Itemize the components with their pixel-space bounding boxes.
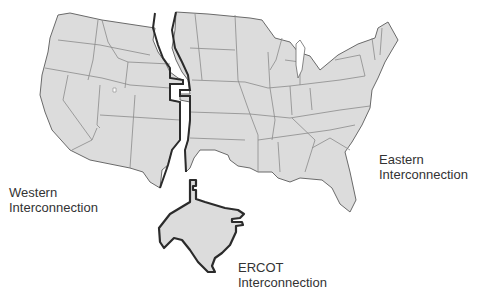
western-label-line2: Interconnection — [9, 200, 98, 215]
eastern-label-line2: Interconnection — [379, 167, 468, 182]
eastern-region — [172, 12, 398, 212]
eastern-label-line1: Eastern — [379, 152, 468, 167]
western-label-line1: Western — [9, 185, 98, 200]
ercot-label-line1: ERCOT — [238, 260, 327, 275]
ercot-label-line2: Interconnection — [238, 275, 327, 290]
ercot-region — [159, 180, 244, 272]
interconnection-map — [0, 0, 482, 291]
western-region — [40, 13, 183, 188]
ercot-interconnection-label: ERCOT Interconnection — [238, 260, 327, 290]
western-interconnection-label: Western Interconnection — [9, 185, 98, 215]
eastern-interconnection-label: Eastern Interconnection — [379, 152, 468, 182]
